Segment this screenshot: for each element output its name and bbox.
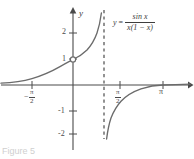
fraction-half-pi-negative: π2 <box>29 89 35 105</box>
figure-caption: Figure 5 <box>2 146 35 156</box>
equation-relation: = <box>117 18 126 27</box>
fraction-half-pi: π2 <box>115 89 121 105</box>
y-axis-label: y <box>79 9 83 18</box>
x-tick-label-half-pi: π2 <box>115 88 121 105</box>
figure-container: y 2 1 -1 -2 −π2 π2 π y=sin xx(1 − x) Fig… <box>0 0 194 159</box>
y-tick-label-2: 2 <box>62 28 66 36</box>
fraction-denominator: 2 <box>115 98 121 105</box>
y-axis <box>70 7 77 150</box>
y-tick-label-minus-2: -2 <box>58 130 65 138</box>
open-circle-hole <box>70 57 75 62</box>
fraction-denominator: 2 <box>29 98 35 105</box>
y-tick-label-1: 1 <box>62 55 66 63</box>
graph-canvas <box>0 0 194 159</box>
y-tick-label-minus-1: -1 <box>58 107 65 115</box>
equation-numerator: sin x <box>125 13 155 23</box>
x-tick-label-minus-half-pi: −π2 <box>24 88 35 105</box>
equation-fraction: sin xx(1 − x) <box>125 13 155 33</box>
curve-left-branch <box>1 13 101 83</box>
equation-annotation: y=sin xx(1 − x) <box>113 13 155 33</box>
x-tick-label-pi: π <box>159 88 163 96</box>
equation-denominator: x(1 − x) <box>125 23 155 32</box>
